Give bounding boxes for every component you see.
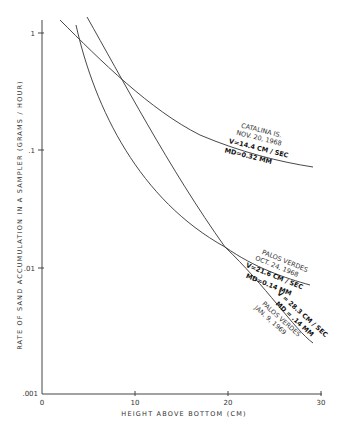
y-axis-label: RATE OF SAND ACCUMULATION IN A SAMPLER (… xyxy=(16,80,24,350)
y-ticks: 1 .1 .01 .001 xyxy=(22,30,44,398)
svg-text:.001: .001 xyxy=(22,390,38,398)
svg-text:.01: .01 xyxy=(24,265,35,273)
annotation-palos-verdes-oct: PALOS VERDES OCT. 24, 1968 V=21.6 CM / S… xyxy=(241,245,311,301)
x-axis-label: HEIGHT ABOVE BOTTOM (CM) xyxy=(121,410,246,418)
svg-text:0: 0 xyxy=(40,399,44,407)
x-ticks: 0 10 20 30 xyxy=(40,391,326,407)
svg-text:20: 20 xyxy=(224,399,233,407)
svg-text:1: 1 xyxy=(31,30,35,38)
svg-text:.1: .1 xyxy=(28,147,35,155)
svg-text:10: 10 xyxy=(131,399,140,407)
sand-accumulation-chart: 1 .1 .01 .001 0 10 20 30 HEIGHT ABOVE BO… xyxy=(0,0,347,432)
svg-text:30: 30 xyxy=(317,399,326,407)
